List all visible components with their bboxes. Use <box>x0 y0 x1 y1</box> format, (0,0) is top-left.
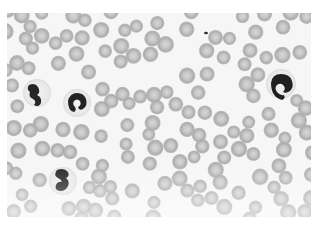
red-blood-cell <box>168 97 183 112</box>
red-blood-cell <box>120 118 134 132</box>
red-blood-cell <box>23 123 38 138</box>
red-blood-cell <box>217 150 231 164</box>
red-blood-cell <box>147 140 163 156</box>
red-blood-cell <box>73 124 90 141</box>
red-blood-cell <box>19 32 33 46</box>
red-blood-cell <box>179 22 194 37</box>
blood-smear-svg <box>7 13 311 217</box>
red-blood-cell <box>121 150 135 164</box>
red-blood-cell <box>276 20 291 35</box>
red-blood-cell <box>10 143 26 159</box>
red-blood-cell <box>198 105 213 120</box>
red-blood-cell <box>55 122 70 137</box>
red-blood-cell <box>276 142 292 158</box>
red-blood-cell <box>133 90 147 104</box>
red-blood-cell <box>34 141 50 157</box>
red-blood-cell <box>200 66 215 81</box>
red-blood-cell <box>94 129 108 143</box>
red-blood-cell <box>49 36 63 50</box>
red-blood-cell <box>274 47 290 63</box>
red-blood-cell <box>238 57 252 71</box>
red-blood-cell <box>50 143 65 158</box>
red-blood-cell <box>208 30 223 45</box>
red-blood-cell <box>114 55 128 69</box>
blood-smear-micrograph <box>7 13 311 217</box>
red-blood-cell <box>74 30 89 45</box>
red-blood-cell <box>181 105 195 119</box>
red-blood-cell <box>213 111 229 127</box>
red-blood-cell <box>143 46 159 62</box>
red-blood-cell <box>51 56 66 71</box>
neutrophil <box>23 79 51 107</box>
red-blood-cell <box>160 85 174 99</box>
red-blood-cell <box>157 36 174 53</box>
red-blood-cell <box>94 101 110 117</box>
platelet <box>204 32 208 35</box>
red-blood-cell <box>10 99 24 113</box>
red-blood-cell <box>192 128 207 143</box>
red-blood-cell <box>81 64 96 79</box>
red-blood-cell <box>179 68 195 84</box>
red-blood-cell <box>22 61 36 75</box>
red-blood-cell <box>243 43 258 58</box>
red-blood-cell <box>69 46 85 62</box>
red-blood-cell <box>95 82 110 97</box>
red-blood-cell <box>163 138 178 153</box>
red-blood-cell <box>150 16 164 30</box>
red-blood-cell <box>292 45 307 60</box>
red-blood-cell <box>23 20 36 33</box>
red-blood-cell <box>130 20 143 33</box>
red-blood-cell <box>113 38 129 54</box>
red-blood-cell <box>142 128 155 141</box>
red-blood-cell <box>118 24 131 37</box>
red-blood-cell <box>239 128 254 143</box>
red-blood-cell <box>264 123 279 138</box>
red-blood-cell <box>248 24 263 39</box>
red-blood-cell <box>199 43 214 58</box>
red-blood-cell <box>260 51 274 65</box>
image-frame: Grayscale light micrograph of a peripher… <box>0 0 318 231</box>
red-blood-cell <box>239 76 255 92</box>
red-blood-cell <box>227 125 240 138</box>
red-blood-cell <box>93 22 109 38</box>
red-blood-cell <box>242 116 255 129</box>
red-blood-cell <box>98 44 112 58</box>
red-blood-cell <box>63 145 78 160</box>
red-blood-cell <box>213 134 228 149</box>
red-blood-cell <box>223 32 236 45</box>
red-blood-cell <box>231 141 247 157</box>
red-blood-cell <box>261 107 275 121</box>
red-blood-cell <box>191 85 206 100</box>
red-blood-cell <box>34 28 50 44</box>
red-blood-cell <box>246 147 260 161</box>
red-blood-cell <box>217 51 231 65</box>
red-blood-cell <box>146 87 162 103</box>
red-blood-cell <box>120 137 133 150</box>
neutrophil <box>63 89 91 117</box>
red-blood-cell <box>290 94 303 107</box>
